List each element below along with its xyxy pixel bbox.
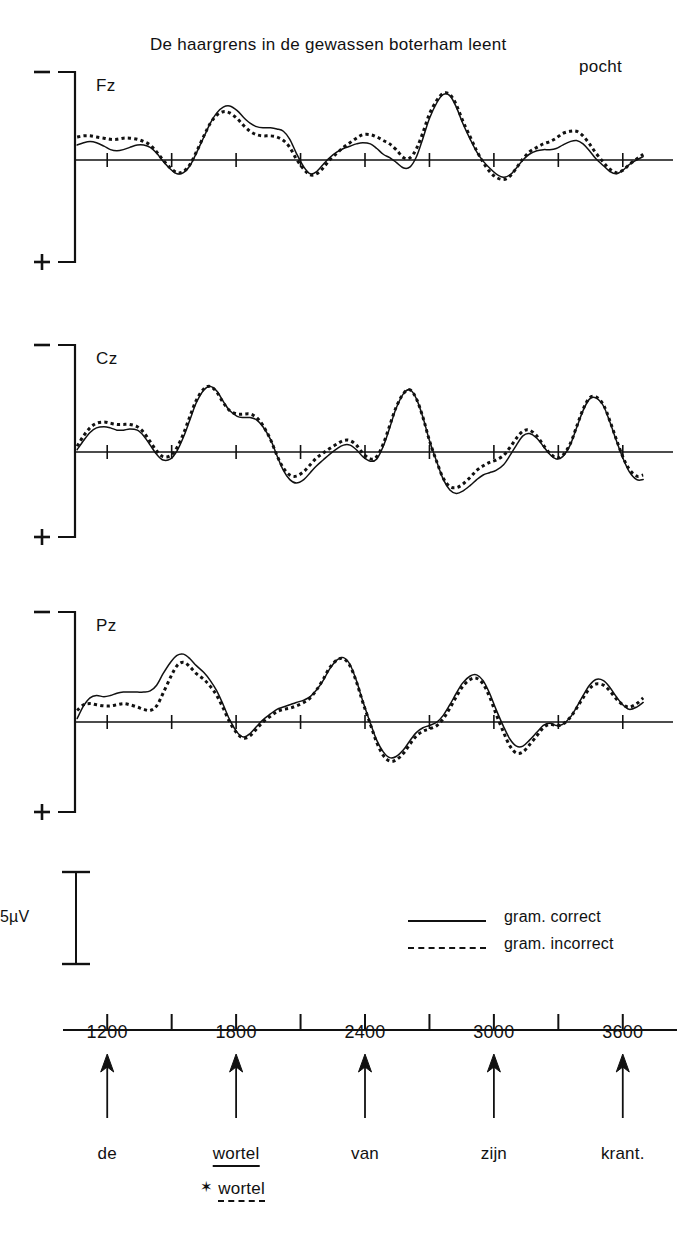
legend-item-incorrect: gram. incorrect — [408, 935, 678, 962]
word-onset-arrow — [359, 1054, 372, 1118]
legend-item-correct: gram. correct — [408, 908, 678, 935]
panel-fz — [34, 72, 673, 270]
legend-label-correct: gram. correct — [504, 908, 601, 926]
time-tick-label: 2400 — [344, 1022, 385, 1043]
time-tick-label: 1800 — [215, 1022, 256, 1043]
time-tick-label: 1200 — [87, 1022, 128, 1043]
word-onset-arrow — [487, 1054, 500, 1118]
word-label-zijn: zijn — [481, 1144, 507, 1164]
word-label-de: de — [98, 1144, 117, 1164]
word-label-wortel: wortel — [213, 1144, 260, 1164]
word-text: van — [351, 1144, 379, 1163]
panel-pz — [34, 612, 673, 820]
calibration-bar — [46, 868, 166, 968]
polarity-bracket — [58, 612, 75, 812]
channel-label-pz: Pz — [96, 616, 117, 636]
time-tick-label: 3600 — [602, 1022, 643, 1043]
calibration-label: 5µV — [0, 908, 29, 926]
channel-label-fz: Fz — [96, 76, 116, 96]
legend-line-dashed-icon — [408, 947, 486, 949]
erp-figure: De haargrens in de gewassen boterham lee… — [0, 0, 688, 1240]
waveform-panels — [0, 0, 688, 860]
word-label-van: van — [351, 1144, 379, 1164]
word-text: de — [98, 1144, 117, 1163]
panel-cz — [34, 345, 673, 545]
waveform-trace-incorrect — [77, 658, 643, 761]
word-onset-arrow — [101, 1054, 114, 1118]
alternate-word-marker: ✶wortel — [200, 1178, 265, 1199]
time-tick-label: 3000 — [473, 1022, 514, 1043]
waveform-svg — [0, 0, 688, 860]
word-onset-arrow — [230, 1054, 243, 1118]
alternate-word-text: wortel — [218, 1179, 265, 1202]
star-icon: ✶ — [200, 1178, 213, 1196]
word-onset-arrows — [0, 1046, 688, 1126]
legend-line-solid-icon — [408, 920, 486, 922]
channel-label-cz: Cz — [96, 349, 118, 369]
legend-label-incorrect: gram. incorrect — [504, 935, 614, 953]
word-text: zijn — [481, 1144, 507, 1163]
word-text: wortel — [213, 1144, 260, 1167]
waveform-trace-correct — [77, 386, 643, 493]
legend: gram. correct gram. incorrect — [408, 908, 678, 962]
word-label-krant: krant. — [601, 1144, 645, 1164]
waveform-trace-incorrect — [77, 386, 643, 488]
word-onset-arrow — [616, 1054, 629, 1118]
waveform-trace-correct — [77, 654, 643, 758]
polarity-bracket — [58, 345, 75, 537]
word-text: krant. — [601, 1144, 645, 1163]
polarity-bracket — [58, 72, 75, 262]
